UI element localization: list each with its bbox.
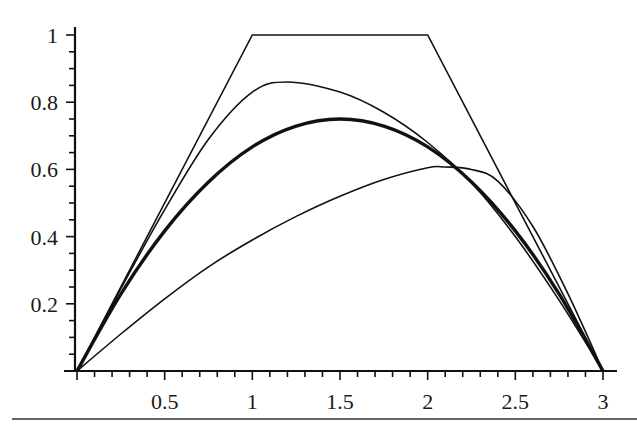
- x-tick-label: 2.5: [502, 389, 530, 414]
- x-axis: 0.511.522.53: [64, 371, 617, 414]
- y-tick-label: 0.8: [31, 90, 59, 115]
- x-tick-label: 3: [598, 389, 609, 414]
- x-tick-label: 1: [247, 389, 258, 414]
- x-tick-label: 2: [422, 389, 433, 414]
- y-tick-label: 0.6: [31, 157, 59, 182]
- chart: 0.20.40.60.81 0.511.522.53: [0, 0, 637, 430]
- x-tick-label: 0.5: [151, 389, 179, 414]
- y-axis: 0.20.40.60.81: [31, 23, 76, 372]
- series-line-trapezoid: [77, 35, 603, 371]
- series-line-curve-peak-right: [77, 166, 603, 371]
- y-tick-label: 1: [47, 23, 58, 48]
- series-line-curve-symmetric: [77, 119, 603, 371]
- x-tick-label: 1.5: [326, 389, 354, 414]
- plot-series: [77, 35, 603, 371]
- y-tick-label: 0.4: [31, 225, 59, 250]
- y-tick-label: 0.2: [31, 292, 59, 317]
- series-line-curve-peak-left: [77, 82, 603, 371]
